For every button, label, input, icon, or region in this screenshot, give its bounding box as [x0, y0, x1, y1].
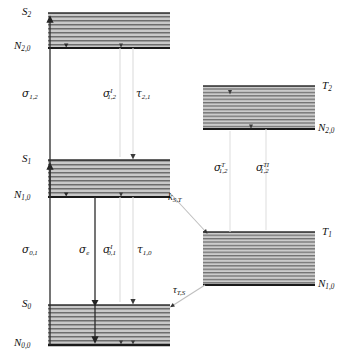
- arrow-tau-2-1: [130, 48, 135, 160]
- state-label-s2: S2: [22, 6, 31, 19]
- arrow-tau-1-0: [130, 197, 135, 305]
- state-label-t1: T1: [322, 226, 332, 239]
- transition-label-tau-2-1: τ2,1: [136, 88, 150, 101]
- band-t1: [203, 232, 315, 285]
- band-t2: [203, 86, 315, 129]
- transition-label-sigma-T-1-2: σT1,2: [214, 162, 227, 175]
- transition-label-tau-1-0: τ1,0: [137, 244, 151, 257]
- level-label-n00-singlet: N0,0: [14, 337, 30, 350]
- state-label-s0: S0: [22, 298, 31, 311]
- transition-label-sigma-e: σe: [79, 244, 89, 257]
- transition-label-tau-T-S: τT,S: [173, 285, 185, 297]
- transition-label-sigma-TI-1-2: σTI1,2: [256, 162, 269, 175]
- transition-label-sigma-I-1-2: σI1,2: [103, 88, 116, 101]
- level-label-n10-singlet: N1,0: [14, 189, 30, 202]
- jablonski-energy-level-diagram: S2 N2,0 S1 N1,0 S0 N0,0 T2 N2,0 T1 N1,0 …: [0, 0, 350, 363]
- diagram-canvas: [0, 0, 350, 363]
- level-label-n20-triplet: N2,0: [318, 122, 334, 135]
- transition-label-sigma-0-1: σ0,1: [22, 244, 38, 257]
- state-label-s1: S1: [22, 153, 31, 166]
- state-label-t2: T2: [322, 80, 332, 93]
- band-s1: [48, 160, 170, 197]
- level-label-n10-triplet: N1,0: [318, 278, 334, 291]
- transition-label-sigma-1-2: σ1,2: [22, 88, 38, 101]
- band-s2: [48, 13, 170, 48]
- transition-label-sigma-I-0-1: σI0,1: [103, 244, 116, 257]
- transition-label-k-S-T: kS,T: [168, 192, 182, 204]
- level-label-n20-singlet: N2,0: [14, 40, 30, 53]
- band-s0: [48, 305, 170, 345]
